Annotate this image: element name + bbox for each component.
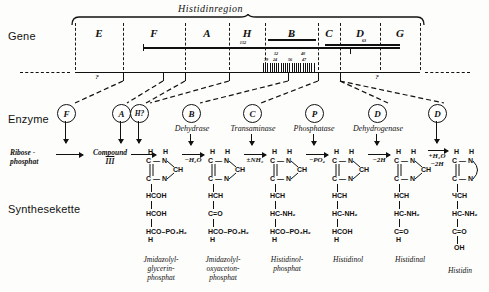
name-line3: phosphat xyxy=(193,273,253,282)
enzyme-arrow-p xyxy=(313,134,314,145)
reaction-arrow-6 xyxy=(368,154,390,155)
reagent-minus-2h: −2H xyxy=(366,156,392,164)
name-line2: oxyaceton- xyxy=(193,264,253,273)
reaction-arrow-1 xyxy=(56,154,83,155)
row-label-gene: Gene xyxy=(8,30,36,42)
chain-bond xyxy=(337,219,338,227)
chain-line-1: HCH xyxy=(332,192,347,200)
chain-line-4: H xyxy=(148,236,153,244)
chain-bond xyxy=(399,184,400,192)
chain-line-1: HCH xyxy=(270,192,285,200)
deletion-bar-63 xyxy=(325,44,400,46)
chain-line-4: OH xyxy=(454,244,465,252)
chain-bond xyxy=(151,184,152,192)
chain-line-4: H xyxy=(334,236,339,244)
name-line1: Histidinal xyxy=(382,255,438,264)
compound-iii: Compound III xyxy=(86,148,134,166)
marker-label-152: 152 xyxy=(234,40,252,45)
reaction-arrow-4 xyxy=(244,154,266,155)
enzyme-circle-p[interactable]: P xyxy=(305,104,324,123)
chain-bond xyxy=(213,184,214,192)
reaction-arrow-5 xyxy=(306,154,328,155)
name-line2: phosphat xyxy=(258,264,316,273)
gene-label-a: A xyxy=(185,27,229,39)
chain-bond xyxy=(213,201,214,209)
enzyme-circle-c[interactable]: C xyxy=(243,104,262,123)
gene-label-f: F xyxy=(123,27,185,39)
chain-line-2: C=O xyxy=(208,210,223,218)
enzyme-circle-d2[interactable]: D xyxy=(428,104,447,123)
chain-bond xyxy=(337,201,338,209)
chain-line-1: HCH xyxy=(394,192,409,200)
enzyme-arrow-d1 xyxy=(376,134,377,145)
mutation-label-40: 40 xyxy=(297,51,309,56)
mutation-label-12: 12 xyxy=(270,51,282,56)
reagent-minus-2h-second: −2H xyxy=(424,160,450,168)
compound-iii-line2: III xyxy=(86,157,134,166)
chain-bond xyxy=(151,201,152,209)
row-label-enzyme: Enzyme xyxy=(8,113,49,125)
name-line1: Histidinol- xyxy=(258,255,316,264)
chain-line-3: C=O xyxy=(452,228,467,236)
compound-name-histidinolphosphat: Histidinol- phosphat xyxy=(258,255,316,273)
chain-line-2: HC-NH₂ xyxy=(270,210,296,218)
enzyme-arrow-c xyxy=(251,134,252,145)
chain-line-3: HCOH xyxy=(332,228,353,236)
mutation-label-56: 56 xyxy=(285,57,295,62)
gene-enzyme-leaders xyxy=(0,72,489,107)
chain-line-4: H xyxy=(272,236,277,244)
compound-name-histidinal: Histidinal xyxy=(382,255,438,264)
enzyme-circle-b[interactable]: B xyxy=(182,104,201,123)
chain-line-2: HC-NH₂ xyxy=(394,210,420,218)
chain-line-3: C=O xyxy=(394,228,409,236)
compound-name-imidazolyloxyacetonphosphat: Jmidazolyl- oxyaceton- phosphat xyxy=(193,255,253,282)
enzyme-circle-a[interactable]: A xyxy=(112,104,131,123)
figure-canvas: Gene Enzyme Synthesekette Histidinregion… xyxy=(0,0,489,292)
deletion-label-22: 22 xyxy=(271,33,313,38)
row-label-synthesekette: Synthesekette xyxy=(8,203,80,215)
enzyme-arrow-d2 xyxy=(436,121,437,143)
chain-bond xyxy=(457,201,458,209)
bar-end-tick xyxy=(143,44,144,51)
chain-bond xyxy=(213,219,214,227)
compound-name-histidin: Histidin xyxy=(432,266,488,275)
gene-label-h: H xyxy=(229,27,265,39)
chain-bond xyxy=(399,219,400,227)
mutation-label-47: 47 xyxy=(299,57,309,62)
chain-line-2: HC-NH₂ xyxy=(452,210,478,218)
chain-bond xyxy=(457,219,458,227)
chain-bond xyxy=(399,201,400,209)
name-line1: Histidinol xyxy=(320,255,376,264)
name-line2: glycerin- xyxy=(131,264,191,273)
reaction-arrow-3 xyxy=(182,154,204,155)
reagent-plusminus-nh2: ±NH₂ xyxy=(242,156,268,164)
name-line1: Histidin xyxy=(432,266,488,275)
histidinregion-title: Histidinregion xyxy=(178,3,243,14)
mutation-label-24: 24 xyxy=(270,57,280,62)
enzyme-circle-f[interactable]: F xyxy=(57,104,76,123)
enzyme-circle-h[interactable]: H? xyxy=(130,104,149,123)
compound-ribose-phosphat: Ribose - phosphat xyxy=(10,148,38,166)
reagent-plus-h2o: +H₂O xyxy=(424,152,450,160)
chain-bond xyxy=(275,184,276,192)
chain-bond xyxy=(337,184,338,192)
name-line3: phosphat xyxy=(131,273,191,282)
ribose-line2: phosphat xyxy=(10,157,38,166)
chain-bond xyxy=(275,219,276,227)
chain-line-1: HCH xyxy=(208,192,223,200)
long-deletion-bar xyxy=(143,47,400,49)
chain-bond xyxy=(457,236,458,244)
compound-name-histidinol: Histidinol xyxy=(320,255,376,264)
gene-label-g: G xyxy=(380,27,420,39)
chain-line-3: HCO–PO₃H₂ xyxy=(208,228,249,236)
reagent-minus-h2o: −H₂O xyxy=(180,156,206,164)
name-line1: Jmidazolyl- xyxy=(193,255,253,264)
name-line1: Jmidazolyl- xyxy=(131,255,191,264)
chain-line-2: HC-NH₂ xyxy=(332,210,358,218)
reaction-arrow-7 xyxy=(428,150,448,151)
chain-bond xyxy=(457,184,458,192)
gene-divider xyxy=(420,23,421,70)
enzyme-circle-d1[interactable]: D xyxy=(368,104,387,123)
compound-name-imidazolylglycerinphosphat: Jmidazolyl- glycerin- phosphat xyxy=(131,255,191,282)
chain-line-3: HCO–PO₃H₂ xyxy=(146,228,187,236)
